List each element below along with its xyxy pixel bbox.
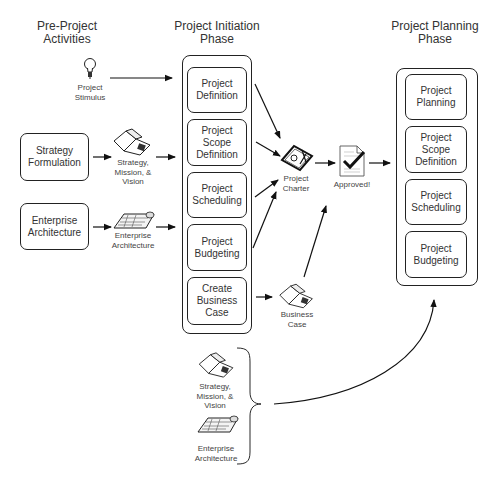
group-strategy-label: Strategy, Mission, & Vision: [190, 382, 240, 411]
strategy-artifact-label: Strategy, Mission, & Vision: [108, 158, 158, 187]
initiation-step-project-scope-definition[interactable]: Project Scope Definition: [187, 119, 247, 166]
lightbulb-icon: [83, 58, 97, 80]
blueprint-icon: [112, 210, 156, 232]
arrow-definition-to-charter: [255, 84, 280, 138]
strategy-formulation-box[interactable]: Strategy Formulation: [20, 133, 89, 181]
arrow-scope-to-charter: [256, 142, 280, 156]
signed-document-icon: [280, 142, 314, 172]
open-book-icon: [197, 351, 237, 379]
step-label: Project Planning: [417, 85, 456, 109]
project-stimulus-label: Project Stimulus: [66, 83, 114, 102]
step-label: Project Scope Definition: [408, 132, 464, 168]
initiation-step-create-business-case[interactable]: Create Business Case: [187, 277, 247, 325]
checkmark-document-icon: [338, 144, 366, 178]
step-label: Project Budgeting: [413, 243, 458, 267]
open-book-icon: [112, 127, 154, 157]
planning-step-project-scope-definition[interactable]: Project Scope Definition: [405, 126, 467, 173]
enterprise-architecture-box[interactable]: Enterprise Architecture: [20, 203, 89, 250]
step-label: Project Budgeting: [194, 236, 239, 260]
open-book-icon: [278, 282, 316, 310]
blueprint-icon: [196, 414, 240, 436]
project-charter-label: Project Charter: [274, 174, 318, 193]
business-case-label: Business Case: [275, 310, 319, 329]
planning-step-project-budgeting[interactable]: Project Budgeting: [405, 231, 467, 278]
step-label: Project Scheduling: [192, 183, 241, 207]
arrow-business-case-to-approved: [304, 206, 326, 277]
step-label: Create Business Case: [197, 283, 238, 319]
approved-label: Approved!: [330, 180, 374, 190]
step-label: Project Scope Definition: [190, 125, 244, 161]
enterprise-architecture-label: Enterprise Architecture: [28, 215, 81, 239]
step-label: Project Scheduling: [411, 190, 460, 214]
enterprise-artifact-label: Enterprise Architecture: [106, 231, 160, 250]
arrow-budgeting-to-charter: [253, 192, 276, 248]
planning-step-project-planning[interactable]: Project Planning: [405, 74, 467, 120]
strategy-formulation-label: Strategy Formulation: [28, 145, 81, 169]
step-label: Project Definition: [196, 78, 238, 102]
initiation-step-project-definition[interactable]: Project Definition: [187, 67, 247, 113]
planning-step-project-scheduling[interactable]: Project Scheduling: [405, 179, 467, 225]
group-enterprise-label: Enterprise Architecture: [190, 444, 242, 463]
initiation-step-project-scheduling[interactable]: Project Scheduling: [187, 172, 247, 218]
initiation-step-project-budgeting[interactable]: Project Budgeting: [187, 224, 247, 271]
